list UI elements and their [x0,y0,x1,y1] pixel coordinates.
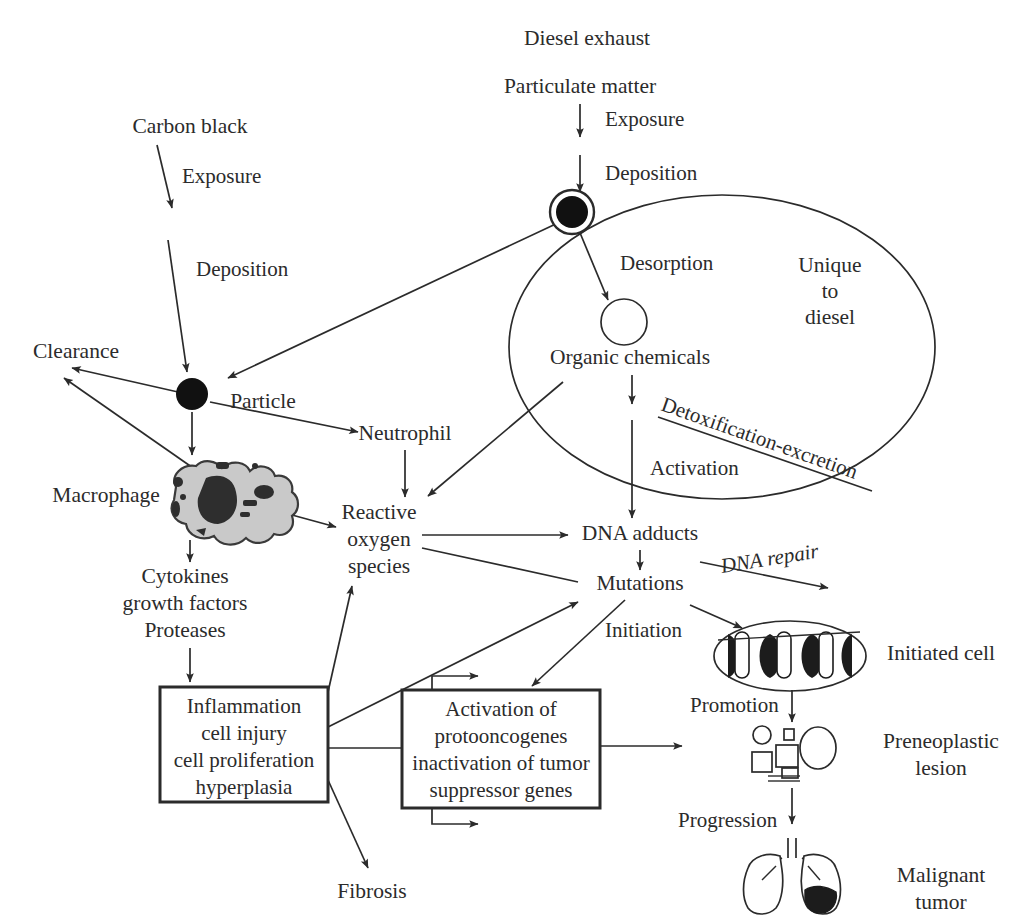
malignant-tumor-lungs-icon [744,838,841,914]
edge-label-deposition-diesel: Deposition [605,161,698,185]
arrow-deposition-carbon [168,240,187,372]
node-diesel-exhaust: Diesel exhaust [524,26,650,50]
arrow-inflammation-to-ros [328,586,352,692]
macrophage-cell-icon [172,461,298,544]
arrow-particle-to-clearance [72,368,178,392]
activation-genes-box-line-3: inactivation of tumor [412,751,589,775]
node-preneoplastic-line-2: lesion [915,756,967,780]
node-cytokines-line-2: growth factors [123,591,248,615]
arrow-exposure-carbon [157,145,172,208]
activation-genes-box-line-4: suppressor genes [430,778,573,802]
edge-label-exposure-carbon: Exposure [182,164,261,188]
node-macrophage: Macrophage [52,483,159,507]
node-cytokines-line-3: Proteases [144,618,225,642]
node-carbon-black: Carbon black [132,114,247,138]
node-organic-chemicals: Organic chemicals [550,345,710,369]
node-initiated-cell: Initiated cell [887,641,995,665]
node-dna-adducts: DNA adducts [582,521,698,545]
node-particulate-matter: Particulate matter [504,74,656,98]
node-unique-line-3: diesel [805,305,855,329]
node-clearance: Clearance [33,339,119,363]
diagram-canvas: Diesel exhaust Particulate matter Carbon… [0,0,1033,922]
node-ros-line-1: Reactive [341,500,416,524]
node-unique-line-1: Unique [798,253,861,277]
preneoplastic-lesion-cluster-icon [752,726,836,781]
arrow-desorption [578,228,608,300]
edge-label-desorption: Desorption [620,251,714,275]
edge-label-dna-repair: DNA repair [718,539,821,578]
inflammation-box-line-2: cell injury [201,721,287,745]
inflammation-box-line-3: cell proliferation [174,748,315,772]
node-unique-line-2: to [822,279,839,303]
edge-label-progression: Progression [678,808,778,832]
node-malignant-line-1: Malignant [897,863,985,887]
node-preneoplastic-line-1: Preneoplastic [883,729,999,753]
node-particle: Particle [230,389,296,413]
arrow-mutations-to-initiated-cell [690,605,742,628]
node-cytokines-line-1: Cytokines [141,564,228,588]
node-ros-line-2: oxygen [347,527,411,551]
activation-genes-box-line-1: Activation of [445,697,556,721]
activation-genes-box-line-2: protooncogenes [435,724,568,748]
edge-label-exposure-diesel: Exposure [605,107,684,131]
activation-box-top-hook-arrow [432,676,478,690]
node-neutrophil: Neutrophil [358,421,451,445]
arrow-diesel-particle-to-lung-particle [228,222,560,378]
edge-label-deposition-carbon: Deposition [196,257,289,281]
arrow-ros-to-mutations [422,548,578,582]
node-ros-line-3: species [348,554,410,578]
desorbed-chemical-circle-icon [601,299,647,345]
inflammation-box-line-1: Inflammation [187,694,302,718]
node-fibrosis: Fibrosis [337,879,406,903]
diesel-particle-with-ring-icon [550,190,594,234]
activation-box-bottom-hook-arrow [432,808,478,824]
edge-label-activation: Activation [650,456,739,480]
node-mutations: Mutations [596,571,683,595]
pathway-diagram-svg: Diesel exhaust Particulate matter Carbon… [0,0,1033,922]
edge-label-promotion: Promotion [690,693,779,717]
arrow-inflammation-to-fibrosis [328,780,368,868]
initiated-cell-dna-helix-icon [714,621,866,691]
carbon-black-particle-icon [176,378,208,410]
edge-label-initiation: Initiation [605,618,682,642]
node-malignant-line-2: tumor [915,890,966,914]
inflammation-box-line-4: hyperplasia [196,775,293,799]
arrow-mutations-to-activation-box [532,600,625,686]
